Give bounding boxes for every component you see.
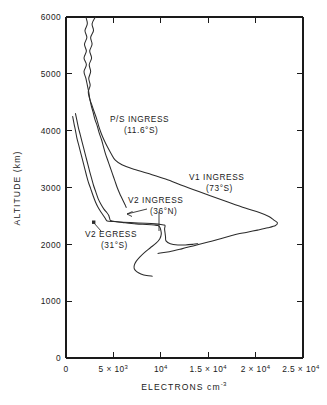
y-tick-label: 5000 <box>41 69 61 79</box>
annotation-v2-egress-name: V2 EGRESS <box>85 229 137 239</box>
x-axis-ticks <box>66 17 303 358</box>
x-tick-label: 104 <box>154 364 168 374</box>
y-tick-labels: 6000 5000 4000 3000 2000 1000 0 <box>41 12 61 363</box>
plot-frame <box>66 17 303 358</box>
y-tick-label: 1000 <box>41 296 61 306</box>
x-tick-label: 2.5 × 104 <box>282 364 320 374</box>
annotation-leaders <box>92 209 159 231</box>
x-tick-label: 2 × 104 <box>241 364 271 374</box>
series-curve-v2-egress <box>73 116 198 245</box>
chart-canvas: 6000 5000 4000 3000 2000 1000 0 0 5 × 10… <box>0 0 327 405</box>
y-tick-label: 0 <box>56 353 61 363</box>
x-tick-labels: 0 5 × 103 104 1.5 × 104 2 × 104 2.5 × 10… <box>63 364 320 374</box>
annotation-v1-ingress-lat: (73°S) <box>206 183 233 193</box>
series-curve-ps-ingress <box>88 17 277 253</box>
annotation-ps-ingress-name: P/S INGRESS <box>110 114 169 124</box>
annotation-v2-ingress-lat: (36°N) <box>150 206 177 216</box>
annotation-v2-egress-lat: (31°S) <box>101 240 128 250</box>
series-curve-v1-ingress <box>84 17 126 207</box>
y-axis-title: ALTITUDE (km) <box>12 151 22 226</box>
x-tick-label: 5 × 103 <box>99 364 129 374</box>
y-tick-label: 3000 <box>41 183 61 193</box>
v2-ingress-leader-arrow <box>127 209 147 217</box>
y-axis-ticks <box>66 17 303 358</box>
annotation-ps-ingress-lat: (11.6°S) <box>124 125 158 135</box>
x-axis-title: ELECTRONS cm-3 <box>141 380 227 392</box>
annotation-v2-ingress-name: V2 INGRESS <box>128 195 183 205</box>
y-tick-label: 6000 <box>41 12 61 22</box>
y-tick-label: 4000 <box>41 126 61 136</box>
annotation-v1-ingress-name: V1 INGRESS <box>189 172 244 182</box>
x-tick-label: 1.5 × 104 <box>190 364 228 374</box>
x-tick-label: 0 <box>63 364 68 374</box>
y-tick-label: 2000 <box>41 240 61 250</box>
v2-egress-leader-marker <box>92 221 95 224</box>
electron-density-altitude-figure: 6000 5000 4000 3000 2000 1000 0 0 5 × 10… <box>0 0 327 405</box>
